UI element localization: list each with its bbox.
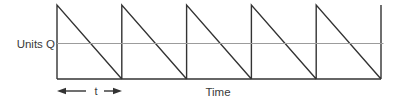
sawtooth-waveform xyxy=(57,5,381,79)
diagram-canvas: Units Q t Time xyxy=(0,0,394,102)
period-measure-arrow xyxy=(57,88,122,94)
left-arrow-icon xyxy=(57,88,86,94)
y-axis-label: Units Q xyxy=(17,38,55,50)
x-axis-label: Time xyxy=(205,86,230,98)
period-label: t xyxy=(94,85,97,97)
sawtooth-inventory-diagram: Units Q t Time xyxy=(0,0,394,102)
right-arrow-icon xyxy=(104,88,122,94)
